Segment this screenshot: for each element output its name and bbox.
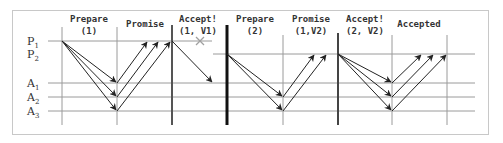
row-label-p2: P2 bbox=[27, 48, 39, 63]
header-accept-1: Accept! bbox=[179, 14, 217, 24]
messages bbox=[62, 41, 446, 111]
arrow-accept2-a1 bbox=[338, 54, 391, 82]
arrow-prepare1-a2 bbox=[62, 41, 116, 96]
header-accept-2-arg: (2, V2) bbox=[346, 26, 384, 36]
row-label-a2: A2 bbox=[26, 91, 39, 106]
header-promise-2-arg: (1,V2) bbox=[295, 26, 328, 36]
phase-headers: Prepare (1) Promise Accept! (1, V1) Prep… bbox=[70, 14, 441, 36]
paxos-diagram: P1 P2 A1 A2 A3 Prepare (1) Promise Accep… bbox=[0, 0, 503, 143]
arrow-promise1-a3 bbox=[117, 42, 170, 111]
header-prepare-1-arg: (1) bbox=[81, 26, 97, 36]
arrow-accepted-a2 bbox=[392, 55, 433, 97]
header-prepare-2: Prepare bbox=[236, 14, 275, 24]
arrow-accept2-a2 bbox=[338, 54, 391, 96]
row-label-a1: A1 bbox=[26, 77, 39, 92]
header-accepted: Accepted bbox=[397, 19, 440, 29]
arrow-prepare2-a3 bbox=[227, 54, 282, 110]
header-prepare-2-arg: (2) bbox=[247, 26, 263, 36]
row-label-a3: A3 bbox=[26, 105, 39, 120]
header-accept-2: Accept! bbox=[346, 14, 384, 24]
header-prepare-1: Prepare bbox=[70, 14, 109, 24]
arrow-prepare2-a2 bbox=[227, 54, 282, 96]
arrow-accept2-a3 bbox=[338, 54, 391, 110]
arrow-promise1-a2 bbox=[117, 42, 158, 97]
row-labels: P1 P2 A1 A2 A3 bbox=[26, 35, 39, 120]
arrow-accepted-a1 bbox=[392, 55, 421, 83]
lifelines bbox=[48, 41, 475, 111]
arrow-accept1-delayed bbox=[172, 41, 212, 82]
header-promise-2: Promise bbox=[292, 14, 331, 24]
header-accept-1-arg: (1, V1) bbox=[179, 26, 217, 36]
header-promise-1: Promise bbox=[126, 19, 165, 29]
